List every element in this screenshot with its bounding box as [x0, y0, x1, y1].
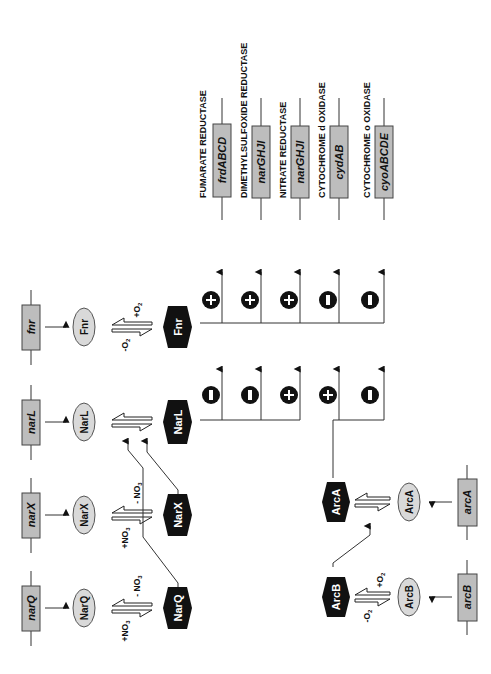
- active-label-arcb: ArcB: [330, 584, 342, 610]
- arcb-to-arca-arrow: [333, 526, 370, 567]
- narx-row: narX NarX +NO3 - NO3 NarX: [22, 478, 192, 553]
- gene-label-narl: narL: [25, 410, 37, 434]
- protein-label-arcb: ArcB: [404, 585, 415, 609]
- regulatory-network-diagram: fnr Fnr -O2 +O2 Fnr narL NarL NarL narX: [0, 0, 491, 674]
- repression-icon: [202, 386, 220, 404]
- signal-plus-o2: +O2: [375, 572, 386, 588]
- operon-label: cyoABCDE: [378, 132, 390, 191]
- arcb-row: arcB ArcB -O2 +O2 ArcB: [322, 560, 477, 635]
- gene-label-narq: narQ: [25, 595, 37, 621]
- narx-to-narl-arrow: [147, 441, 178, 494]
- target-label: CYTOCHROME d OXIDASE: [317, 82, 327, 198]
- equilibrium-arrows-icon: [355, 493, 390, 511]
- target-cyo: CYTOCHROME o OXIDASE cyoABCDE: [362, 82, 393, 220]
- narl-regulation: [200, 369, 300, 420]
- operon-label: narGHJI: [294, 140, 306, 184]
- target-label: NITRATE REDUCTASE: [278, 102, 288, 198]
- protein-label-narq: NarQ: [79, 596, 90, 621]
- active-label-narl: NarL: [172, 409, 184, 434]
- operon-label: narGHJI: [255, 140, 267, 184]
- target-label: FUMARATE REDUCTASE: [198, 90, 208, 198]
- gene-label-arcb: arcB: [461, 585, 473, 610]
- equilibrium-arrows-icon: [112, 318, 152, 336]
- gene-label-arca: arcA: [461, 490, 473, 515]
- target-label: CYTOCHROME o OXIDASE: [362, 82, 372, 198]
- operon-label: cydAB: [333, 145, 345, 180]
- signal-plus-no3: +NO3: [120, 527, 131, 549]
- signal-plus-no3: +NO3: [120, 620, 131, 642]
- signal-minus-no3: - NO3: [132, 575, 143, 597]
- activation-icon: [202, 291, 220, 309]
- active-label-arca: ArcA: [330, 489, 342, 515]
- activation-icon: [319, 386, 337, 404]
- narq-row: narQ NarQ +NO3 - NO3 NarQ: [22, 571, 192, 646]
- repression-icon: [361, 291, 379, 309]
- arca-row: arcA ArcA ArcA: [322, 465, 477, 540]
- signal-minus-o2: -O2: [362, 609, 373, 622]
- equilibrium-arrows-icon: [355, 588, 390, 606]
- protein-label-arca: ArcA: [404, 490, 415, 514]
- gene-label-narx: narX: [25, 502, 37, 527]
- fnr-row: fnr Fnr -O2 +O2 Fnr: [22, 290, 192, 365]
- equilibrium-arrows-icon: [112, 599, 152, 617]
- protein-label-fnr: Fnr: [79, 319, 90, 335]
- signal-minus-o2: -O2: [120, 338, 131, 351]
- activation-icon: [280, 386, 298, 404]
- signal-plus-o2: +O2: [132, 302, 143, 318]
- repression-icon: [241, 386, 259, 404]
- equilibrium-arrows-icon: [112, 413, 152, 431]
- protein-label-narx: NarX: [79, 503, 90, 527]
- active-label-narx: NarX: [172, 502, 184, 528]
- repression-icon: [361, 386, 379, 404]
- repression-icon: [319, 291, 337, 309]
- fnr-regulation: [200, 272, 384, 323]
- activation-icon: [241, 291, 259, 309]
- gene-label-fnr: fnr: [25, 319, 37, 334]
- target-frd: FUMARATE REDUCTASE frdABCD: [198, 90, 231, 220]
- narl-row: narL NarL NarL: [22, 385, 192, 460]
- protein-label-narl: NarL: [79, 411, 90, 434]
- equilibrium-arrows-icon: [112, 506, 152, 524]
- target-nar: NITRATE REDUCTASE narGHJI: [278, 98, 309, 220]
- operon-label: frdABCD: [216, 137, 228, 183]
- active-label-fnr: Fnr: [172, 317, 184, 335]
- signal-minus-no3: - NO3: [132, 482, 143, 504]
- target-label: DIMETHYLSULFOXIDE REDUCTASE: [239, 43, 249, 198]
- target-cyd: CYTOCHROME d OXIDASE cydAB: [317, 82, 348, 220]
- active-label-narq: NarQ: [172, 594, 184, 621]
- arca-regulation: [319, 369, 384, 478]
- activation-icon: [280, 291, 298, 309]
- target-dms: DIMETHYLSULFOXIDE REDUCTASE narGHJI: [239, 43, 270, 220]
